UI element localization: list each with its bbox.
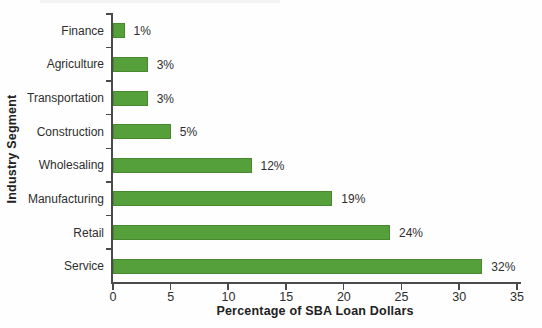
y-tick bbox=[106, 13, 112, 15]
category-label: Manufacturing bbox=[0, 192, 104, 206]
category-label: Finance bbox=[0, 24, 104, 38]
category-label: Construction bbox=[0, 125, 104, 139]
category-label: Agriculture bbox=[0, 57, 104, 71]
bar-value-label: 5% bbox=[180, 125, 197, 139]
bar bbox=[113, 124, 171, 139]
y-tick bbox=[106, 215, 112, 217]
bar bbox=[113, 57, 148, 72]
x-axis-title: Percentage of SBA Loan Dollars bbox=[113, 304, 517, 318]
bar-value-label: 19% bbox=[341, 192, 365, 206]
x-tick-label: 10 bbox=[221, 290, 235, 304]
scan-artifact bbox=[40, 0, 280, 3]
category-label: Transportation bbox=[0, 91, 104, 105]
bar-value-label: 12% bbox=[261, 159, 285, 173]
bar-value-label: 3% bbox=[157, 58, 174, 72]
sba-loan-bar-chart: Industry Segment 1%3%3%5%12%19%24%32% Pe… bbox=[0, 0, 542, 328]
y-tick bbox=[106, 47, 112, 49]
bar bbox=[113, 91, 148, 106]
category-label: Retail bbox=[0, 226, 104, 240]
plot-area: 1%3%3%5%12%19%24%32% bbox=[113, 14, 517, 283]
bar-value-label: 32% bbox=[491, 260, 515, 274]
y-tick bbox=[106, 114, 112, 116]
bar bbox=[113, 191, 332, 206]
bar-value-label: 24% bbox=[399, 226, 423, 240]
y-tick bbox=[106, 148, 112, 150]
x-tick-label: 20 bbox=[337, 290, 351, 304]
bar-value-label: 1% bbox=[134, 24, 151, 38]
y-tick bbox=[106, 181, 112, 183]
x-tick-label: 0 bbox=[110, 290, 117, 304]
y-tick bbox=[106, 248, 112, 250]
x-tick-label: 30 bbox=[452, 290, 466, 304]
category-label: Service bbox=[0, 259, 104, 273]
category-label: Wholesaling bbox=[0, 158, 104, 172]
bar bbox=[113, 158, 252, 173]
x-tick-label: 5 bbox=[167, 290, 174, 304]
bar bbox=[113, 23, 125, 38]
bar bbox=[113, 225, 390, 240]
y-tick bbox=[106, 80, 112, 82]
x-tick-label: 25 bbox=[395, 290, 409, 304]
bar-value-label: 3% bbox=[157, 92, 174, 106]
x-tick-label: 15 bbox=[279, 290, 293, 304]
x-tick-label: 35 bbox=[510, 290, 524, 304]
bar bbox=[113, 259, 482, 274]
